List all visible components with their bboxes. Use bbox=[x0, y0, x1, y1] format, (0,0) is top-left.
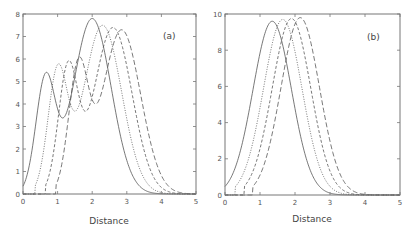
series-solid bbox=[23, 19, 196, 195]
x-tick-label: 2 bbox=[293, 199, 297, 207]
x-axis-label-a: Distance bbox=[89, 216, 129, 226]
series-dashed bbox=[225, 19, 400, 195]
x-tick-label: 0 bbox=[223, 199, 227, 207]
y-tick-label: 4 bbox=[218, 119, 223, 127]
x-axis-label-b: Distance bbox=[292, 214, 332, 224]
y-tick-label: 1 bbox=[16, 168, 20, 176]
series-dashed bbox=[23, 28, 196, 195]
x-tick-label: 4 bbox=[159, 198, 164, 206]
x-tick-label: 1 bbox=[258, 199, 262, 207]
y-tick-label: 4 bbox=[16, 101, 21, 109]
x-tick-label: 4 bbox=[363, 199, 368, 207]
y-tick-label: 2 bbox=[218, 155, 222, 163]
y-tick-label: 6 bbox=[218, 83, 223, 91]
y-tick-label: 2 bbox=[16, 146, 20, 154]
x-tick-label: 5 bbox=[398, 199, 402, 207]
y-tick-label: 8 bbox=[218, 47, 222, 55]
y-tick-label: 10 bbox=[213, 11, 222, 19]
series-solid bbox=[225, 21, 400, 195]
figure: 012345012345678 (a) Distance 01234502468… bbox=[0, 0, 414, 233]
y-tick-label: 8 bbox=[16, 11, 20, 19]
curves-b bbox=[225, 18, 400, 195]
series-dotted bbox=[225, 19, 400, 195]
y-tick-label: 6 bbox=[16, 56, 21, 64]
series-long-dashed bbox=[225, 18, 400, 195]
y-tick-label: 5 bbox=[16, 78, 20, 86]
y-tick-label: 7 bbox=[16, 33, 20, 41]
x-tick-label: 3 bbox=[125, 198, 129, 206]
plot-frame-a bbox=[23, 14, 196, 194]
y-tick-label: 0 bbox=[16, 191, 20, 199]
x-tick-label: 3 bbox=[328, 199, 332, 207]
x-tick-label: 1 bbox=[55, 198, 59, 206]
chart-panel-a: 012345012345678 (a) Distance bbox=[16, 11, 199, 227]
x-tick-label: 2 bbox=[90, 198, 94, 206]
curves-a bbox=[23, 19, 196, 195]
x-tick-label: 5 bbox=[194, 198, 198, 206]
chart-panel-b: 0123450246810 (b) Distance bbox=[213, 11, 402, 225]
y-tick-label: 3 bbox=[16, 123, 20, 131]
series-dotted bbox=[23, 25, 196, 194]
panel-label-b: (b) bbox=[367, 32, 380, 42]
y-tick-label: 0 bbox=[218, 192, 222, 200]
x-tick-label: 0 bbox=[21, 198, 25, 206]
panel-label-a: (a) bbox=[163, 31, 176, 41]
